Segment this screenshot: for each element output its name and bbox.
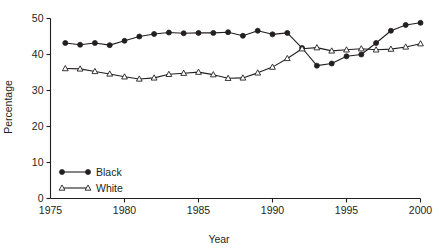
x-tick-label: 1975 bbox=[39, 204, 63, 216]
legend-marker bbox=[86, 170, 91, 175]
y-tick-label: 0 bbox=[38, 192, 44, 204]
data-point bbox=[314, 45, 320, 50]
x-tick-label: 1985 bbox=[187, 204, 211, 216]
data-point bbox=[166, 30, 171, 35]
legend-item-black: Black bbox=[60, 166, 123, 178]
x-axis-title: Year bbox=[208, 233, 230, 245]
chart-canvas: 01020304050 197519801985199019952000 Bla… bbox=[0, 0, 439, 251]
series-white bbox=[62, 41, 423, 82]
data-point bbox=[359, 52, 364, 57]
data-point bbox=[358, 46, 364, 51]
data-point bbox=[314, 63, 319, 68]
data-point bbox=[284, 55, 290, 60]
legend-marker bbox=[60, 170, 65, 175]
data-point bbox=[418, 41, 424, 46]
legend-label: Black bbox=[96, 166, 122, 178]
data-point bbox=[388, 28, 393, 33]
series-black bbox=[63, 20, 423, 68]
data-point bbox=[107, 43, 112, 48]
data-point bbox=[152, 31, 157, 36]
data-point bbox=[211, 30, 216, 35]
line-chart: 01020304050 197519801985199019952000 Bla… bbox=[0, 0, 439, 251]
x-axis-tick-labels: 197519801985199019952000 bbox=[39, 204, 433, 216]
data-point bbox=[374, 40, 379, 45]
data-point bbox=[285, 30, 290, 35]
legend-item-white: White bbox=[59, 182, 123, 194]
data-point bbox=[181, 31, 186, 36]
y-axis-ticks bbox=[47, 19, 51, 199]
data-point bbox=[403, 22, 408, 27]
data-point bbox=[344, 54, 349, 59]
y-tick-label: 30 bbox=[32, 84, 44, 96]
legend-label: White bbox=[96, 182, 123, 194]
x-tick-label: 1995 bbox=[335, 204, 359, 216]
y-tick-label: 40 bbox=[32, 48, 44, 60]
series-path bbox=[65, 44, 420, 79]
y-tick-label: 20 bbox=[32, 120, 44, 132]
data-point bbox=[196, 30, 201, 35]
series-layer bbox=[62, 20, 423, 81]
x-tick-label: 1980 bbox=[113, 204, 137, 216]
data-point bbox=[92, 40, 97, 45]
series-path bbox=[65, 23, 420, 66]
chart-legend: BlackWhite bbox=[59, 166, 123, 194]
data-point bbox=[418, 20, 423, 25]
y-axis-tick-labels: 01020304050 bbox=[32, 12, 44, 204]
y-tick-label: 50 bbox=[32, 12, 44, 24]
data-point bbox=[137, 34, 142, 39]
axes-group: 01020304050 197519801985199019952000 bbox=[32, 12, 433, 216]
data-point bbox=[329, 61, 334, 66]
data-point bbox=[255, 28, 260, 33]
x-axis-ticks bbox=[125, 199, 421, 203]
data-point bbox=[196, 69, 202, 74]
data-point bbox=[270, 32, 275, 37]
y-tick-label: 10 bbox=[32, 156, 44, 168]
data-point bbox=[78, 42, 83, 47]
data-point bbox=[226, 30, 231, 35]
data-point bbox=[122, 38, 127, 43]
x-tick-label: 1990 bbox=[261, 204, 285, 216]
x-tick-label: 2000 bbox=[409, 204, 433, 216]
data-point bbox=[270, 64, 276, 69]
data-point bbox=[63, 40, 68, 45]
y-axis-title: Percentage bbox=[2, 80, 14, 134]
data-point bbox=[240, 33, 245, 38]
